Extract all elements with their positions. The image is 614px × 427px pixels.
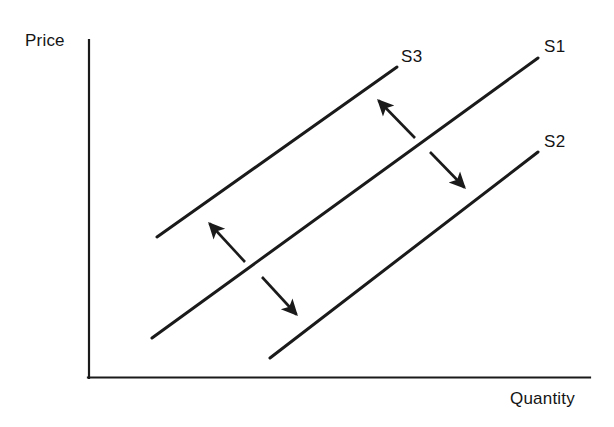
shift-arrows-group (210, 101, 465, 315)
supply-curves-group (152, 58, 538, 358)
arrow-s1-to-s2-upper-icon (430, 152, 465, 188)
curve-label-s2: S2 (544, 133, 565, 150)
arrow-s1-to-s3-lower-icon (210, 224, 246, 263)
supply-curve-s2 (270, 152, 538, 358)
axis-group (88, 40, 590, 378)
arrow-s1-to-s3-upper-icon (379, 101, 416, 139)
x-axis-label: Quantity (510, 390, 575, 407)
y-axis-label: Price (25, 32, 65, 49)
arrow-s1-to-s2-lower-icon (262, 277, 297, 315)
supply-curve-s3 (157, 67, 397, 237)
curve-label-s3: S3 (401, 48, 422, 65)
supply-shift-diagram: Price Quantity S3 S1 S2 (0, 0, 614, 427)
diagram-canvas (0, 0, 614, 427)
curve-label-s1: S1 (544, 38, 565, 55)
